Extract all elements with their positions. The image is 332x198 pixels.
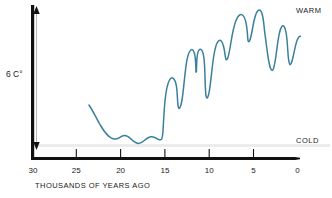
x-tick-label-15: 15 [160,166,169,175]
y-axis-line [31,5,34,160]
x-tick-label-0: 0 [295,166,299,175]
x-axis-title: THOUSANDS OF YEARS AGO [35,181,150,190]
x-tick-label-20: 20 [116,166,125,175]
warm-label: WARM [296,6,321,15]
y-scale-bar [33,6,39,150]
temperature-curve [89,10,300,143]
cold-label: COLD [296,136,319,145]
climate-temperature-chart: 6 C° WARM COLD 30 25 20 15 10 5 0 THOUSA… [0,0,332,198]
x-axis-ticks [76,149,253,157]
x-axis-line [31,157,295,160]
cold-reference-line [34,144,330,147]
chart-axes [31,5,300,160]
x-axis-taper [295,157,300,160]
y-scale-bar-label: 6 C° [6,69,23,79]
x-tick-label-30: 30 [29,166,38,175]
x-tick-label-10: 10 [205,166,214,175]
x-tick-label-5: 5 [251,166,255,175]
x-tick-label-25: 25 [72,166,81,175]
